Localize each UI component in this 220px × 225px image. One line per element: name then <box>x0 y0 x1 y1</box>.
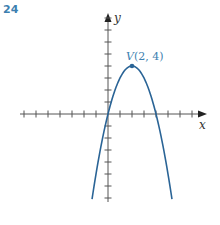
vertex-coords: (2, 4) <box>134 50 164 63</box>
vertex-label: V(2, 4) <box>126 50 164 63</box>
axes <box>20 13 207 202</box>
x-axis-label: x <box>199 118 206 132</box>
x-axis-arrow-icon <box>198 111 207 118</box>
parabola-curve <box>92 66 172 199</box>
vertex-point <box>130 64 135 69</box>
y-axis-label: y <box>113 11 121 25</box>
parabola-graph: x y V(2, 4) <box>0 0 220 225</box>
